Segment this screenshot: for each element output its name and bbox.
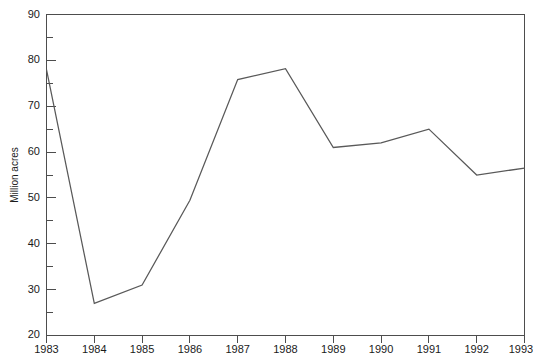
x-tick-label: 1985 — [130, 343, 154, 355]
x-tick-label: 1991 — [417, 343, 441, 355]
y-tick-label: 70 — [28, 99, 40, 111]
y-tick-label: 20 — [28, 328, 40, 340]
x-tick-label: 1993 — [509, 343, 533, 355]
y-tick-label: 90 — [28, 8, 40, 20]
x-tick-label: 1989 — [321, 343, 345, 355]
x-tick-label: 1987 — [225, 343, 249, 355]
y-tick-label: 80 — [28, 53, 40, 65]
x-tick-label: 1984 — [82, 343, 106, 355]
x-tick-label: 1992 — [464, 343, 488, 355]
y-tick-label: 60 — [28, 145, 40, 157]
y-axis-label: Million acres — [9, 147, 20, 203]
x-tick-label: 1990 — [369, 343, 393, 355]
x-tick-label: 1983 — [34, 343, 58, 355]
y-tick-label: 30 — [28, 283, 40, 295]
chart-background — [0, 0, 533, 359]
line-chart: 90 80 70 60 50 40 30 20 Million acres 19… — [0, 0, 533, 359]
y-tick-label: 40 — [28, 237, 40, 249]
x-tick-label: 1988 — [273, 343, 297, 355]
x-tick-label: 1986 — [178, 343, 202, 355]
y-tick-label: 50 — [28, 191, 40, 203]
